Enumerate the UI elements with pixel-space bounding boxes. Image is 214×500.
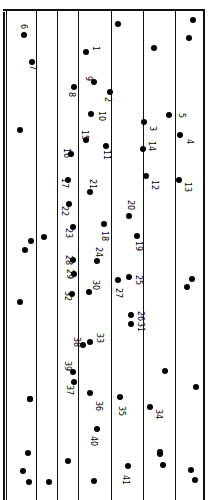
unlabeled-dot xyxy=(46,479,52,485)
dot-number-label: 20 xyxy=(126,200,134,210)
unlabeled-dot xyxy=(25,450,31,456)
unlabeled-dot xyxy=(41,234,47,240)
unlabeled-dot xyxy=(65,458,71,464)
numbered-dot xyxy=(115,277,121,283)
dot-number-label: 2 xyxy=(103,97,111,102)
dot-number-label: 15 xyxy=(80,130,88,140)
numbered-dot xyxy=(71,84,77,90)
ruled-paper-sheet: 1234567891011121314151617181920212223242… xyxy=(0,0,214,500)
numbered-dot xyxy=(21,32,27,38)
dot-number-label: 16 xyxy=(62,148,70,158)
unlabeled-dot xyxy=(157,451,163,457)
ruled-line xyxy=(57,10,58,500)
numbered-dot xyxy=(117,394,123,400)
numbered-dot xyxy=(83,49,89,55)
unlabeled-dot xyxy=(17,299,23,305)
dot-number-label: 9 xyxy=(84,76,92,81)
paper-left-edge xyxy=(3,12,5,500)
ruled-line xyxy=(111,10,112,500)
numbered-dot xyxy=(94,258,100,264)
numbered-dot xyxy=(128,321,134,327)
unlabeled-dot xyxy=(151,45,157,51)
ruled-line xyxy=(175,10,176,500)
numbered-dot xyxy=(141,119,147,125)
unlabeled-dot xyxy=(189,276,195,282)
dot-number-label: 25 xyxy=(134,275,142,285)
dot-number-label: 35 xyxy=(117,406,125,416)
dot-number-label: 32 xyxy=(63,291,71,301)
unlabeled-dot xyxy=(22,247,28,253)
dot-number-label: 38 xyxy=(72,337,80,347)
unlabeled-dot xyxy=(162,368,168,374)
unlabeled-dot xyxy=(26,479,32,485)
dot-number-label: 34 xyxy=(154,409,162,419)
numbered-dot xyxy=(101,221,107,227)
dot-number-label: 5 xyxy=(177,113,185,118)
paper-left-margin-line xyxy=(6,10,7,500)
unlabeled-dot xyxy=(193,384,199,390)
dot-number-label: 12 xyxy=(150,180,158,190)
dot-number-label: 40 xyxy=(89,436,97,446)
dot-number-label: 37 xyxy=(65,385,73,395)
numbered-dot xyxy=(87,390,93,396)
dot-number-label: 8 xyxy=(67,92,75,97)
dot-number-label: 13 xyxy=(183,182,191,192)
dot-number-label: 19 xyxy=(134,241,142,251)
ruled-line xyxy=(143,10,144,500)
numbered-dot xyxy=(166,112,172,118)
numbered-dot xyxy=(107,89,113,95)
numbered-dot xyxy=(143,173,149,179)
dot-number-label: 29 xyxy=(65,269,73,279)
dot-number-label: 30 xyxy=(91,280,99,290)
numbered-dot xyxy=(128,312,134,318)
unlabeled-dot xyxy=(192,477,198,483)
numbered-dot xyxy=(103,143,109,149)
dot-number-label: 21 xyxy=(88,179,96,189)
dot-number-label: 33 xyxy=(95,333,103,343)
unlabeled-dot xyxy=(115,21,121,27)
numbered-dot xyxy=(134,233,140,239)
dot-number-label: 36 xyxy=(94,401,102,411)
dot-number-label: 17 xyxy=(60,178,68,188)
unlabeled-dot xyxy=(27,396,33,402)
dot-number-label: 11 xyxy=(102,150,110,160)
dot-number-label: 28 xyxy=(64,255,72,265)
numbered-dot xyxy=(88,111,94,117)
ruled-line xyxy=(36,10,37,500)
unlabeled-dot xyxy=(184,284,190,290)
dot-number-label: 18 xyxy=(100,231,108,241)
unlabeled-dot xyxy=(20,468,26,474)
dot-number-label: 27 xyxy=(114,288,122,298)
unlabeled-dot xyxy=(188,467,194,473)
numbered-dot xyxy=(125,463,131,469)
dot-number-label: 10 xyxy=(97,111,105,121)
dot-number-label: 1 xyxy=(91,46,99,51)
dot-number-label: 31 xyxy=(136,322,144,332)
numbered-dot xyxy=(87,339,93,345)
dot-number-label: 22 xyxy=(60,206,68,216)
paper-right-edge xyxy=(203,9,205,500)
dot-number-label: 26 xyxy=(136,311,144,321)
numbered-dot xyxy=(176,177,182,183)
unlabeled-dot xyxy=(91,478,97,484)
numbered-dot xyxy=(126,274,132,280)
numbered-dot xyxy=(140,146,146,152)
unlabeled-dot xyxy=(186,35,192,41)
numbered-dot xyxy=(87,189,93,195)
unlabeled-dot xyxy=(160,462,166,468)
ruled-line xyxy=(78,10,79,500)
dot-number-label: 4 xyxy=(185,139,193,144)
numbered-dot xyxy=(147,404,153,410)
dot-number-label: 24 xyxy=(94,247,102,257)
dot-number-label: 39 xyxy=(63,361,71,371)
unlabeled-dot xyxy=(190,17,196,23)
dot-number-label: 14 xyxy=(147,141,155,151)
unlabeled-dot xyxy=(17,127,23,133)
numbered-dot xyxy=(94,426,100,432)
numbered-dot xyxy=(177,132,183,138)
numbered-dot xyxy=(126,213,132,219)
dot-number-label: 7 xyxy=(28,65,36,70)
paper-top-edge xyxy=(3,9,204,11)
dot-number-label: 23 xyxy=(64,228,72,238)
unlabeled-dot xyxy=(28,238,34,244)
